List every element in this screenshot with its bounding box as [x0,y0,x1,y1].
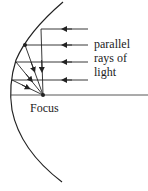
mirror-point-dot [23,43,27,47]
focus-point-dot [41,93,45,97]
incoming-rays [12,29,88,80]
focus-label: Focus [30,101,59,115]
rays-label-line2: rays of [94,51,127,65]
parabolic-mirror-diagram: parallel rays of light Focus [0,0,148,191]
rays-label-line1: parallel [94,37,130,51]
diagram-canvas [0,0,148,191]
rays-label-line3: light [94,65,116,79]
